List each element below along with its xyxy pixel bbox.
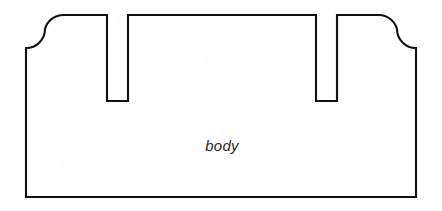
body-outline-path [26,15,416,197]
body-cross-section-diagram: body [0,0,442,211]
body-label: body [205,137,240,154]
diagram-page: body [0,0,442,211]
